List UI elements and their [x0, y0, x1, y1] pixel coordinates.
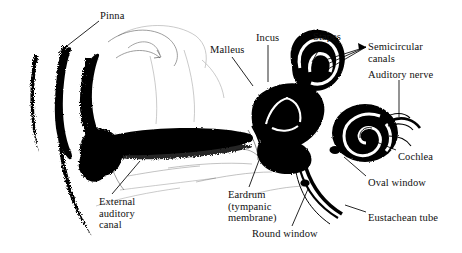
label-malleus: Malleus: [210, 44, 245, 56]
label-semicircular-canals: Semicircular canals: [368, 41, 423, 64]
label-external-auditory-canal: External auditory canal: [99, 196, 135, 231]
label-stapes: Stapes: [313, 31, 341, 43]
label-pinna: Pinna: [100, 10, 124, 22]
label-oval-window: Oval window: [368, 177, 426, 189]
oval-window: [330, 146, 341, 154]
label-auditory-nerve: Auditory nerve: [368, 69, 433, 81]
label-incus: Incus: [256, 32, 279, 44]
label-cochlea: Cochlea: [398, 151, 433, 163]
ear-anatomy-figure: PinnaMalleusIncusStapesSemicircular cana…: [0, 0, 462, 253]
label-eustachean-tube: Eustachean tube: [368, 212, 438, 224]
label-eardrum: Eardrum (tympanic membrane): [228, 189, 277, 224]
label-round-window: Round window: [252, 228, 318, 240]
